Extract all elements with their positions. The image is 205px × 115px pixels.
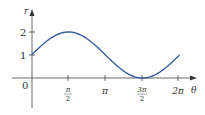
- theta-axis-arrow-icon: [190, 76, 197, 81]
- theta-axis-label: θ: [191, 85, 197, 95]
- x-label-pi-half-den: 2: [66, 95, 70, 103]
- x-label-three-pi-half-den: 2: [140, 95, 144, 103]
- y-label-2: 2: [20, 27, 26, 38]
- x-label-pi: π: [101, 86, 109, 96]
- r-axis-label: r: [24, 6, 29, 16]
- x-label-pi-half-num: π: [65, 86, 71, 94]
- x-label-two-pi: 2π: [171, 86, 185, 96]
- y-label-1: 1: [20, 50, 26, 61]
- polar-graph: r 2 1 0 π 2 π 3π 2 2π θ: [0, 0, 205, 115]
- origin-label: 0: [22, 80, 28, 91]
- x-label-three-pi-half-num: 3π: [137, 86, 146, 94]
- curve-r-theta: [32, 32, 180, 78]
- r-axis-arrow-icon: [30, 9, 35, 16]
